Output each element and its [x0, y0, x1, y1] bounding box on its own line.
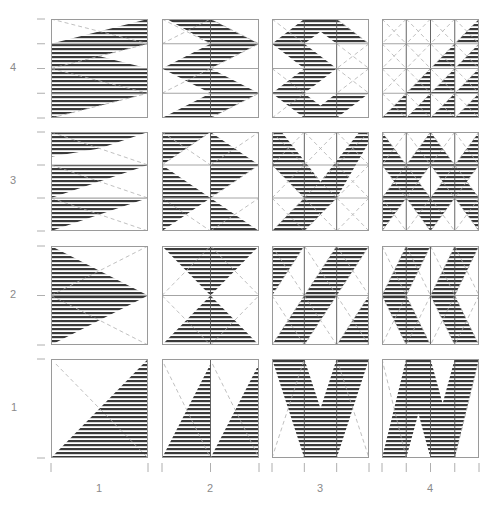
x-axis-label-2: 2	[207, 482, 213, 494]
dashed-guide	[304, 132, 336, 165]
dashed-guide	[337, 69, 369, 94]
dashed-guide	[337, 69, 369, 94]
x-axis-label-3: 3	[317, 482, 323, 494]
panel-r2-c3	[272, 246, 369, 345]
dashed-guide	[337, 198, 369, 231]
panel-r2-c1	[51, 246, 148, 345]
panel-r1-c3	[272, 359, 369, 458]
panel-r1-c2	[162, 359, 259, 458]
panel-r1-c4	[382, 359, 479, 458]
panel-r3-c2	[162, 132, 259, 231]
x-axis-label-4: 4	[427, 482, 433, 494]
panel-r4-c2	[162, 19, 259, 118]
y-axis-label-3: 3	[10, 174, 16, 186]
figure-canvas	[0, 0, 499, 517]
dashed-guide	[337, 44, 369, 69]
pattern-grid-figure: 4 3 2 1 1 2 3 4	[0, 0, 499, 517]
y-axis-label-1: 1	[11, 401, 17, 413]
y-axis-label-2: 2	[10, 288, 16, 300]
panel-r3-c1	[51, 132, 148, 231]
striped-shape	[51, 359, 148, 458]
dashed-guide	[337, 44, 369, 69]
panel-r3-c3	[272, 132, 369, 231]
panel-r4-c3	[272, 19, 369, 118]
panel-r4-c4	[382, 19, 479, 118]
panel-r4-c1	[51, 19, 148, 118]
panels-layer	[51, 19, 479, 458]
x-axis-label-1: 1	[96, 482, 102, 494]
y-axis-label-4: 4	[10, 61, 16, 73]
striped-shape	[272, 359, 369, 458]
panel-r2-c4	[382, 246, 479, 345]
panel-r3-c4	[382, 132, 479, 231]
panel-r1-c1	[51, 359, 148, 458]
panel-r2-c2	[162, 246, 259, 345]
